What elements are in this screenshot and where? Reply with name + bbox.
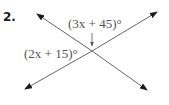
line-descending-lower [92, 51, 147, 90]
intersecting-lines-diagram: (3x + 45)° (2x + 15)° [0, 0, 169, 105]
angle-label-left: (2x + 15)° [24, 46, 78, 61]
angle-label-top: (3x + 45)° [68, 16, 122, 31]
